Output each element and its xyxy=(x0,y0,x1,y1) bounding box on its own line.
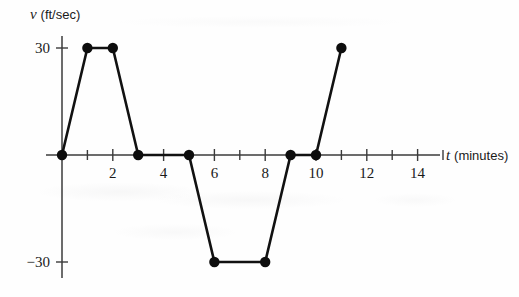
data-point-marker xyxy=(133,150,143,160)
x-axis-tick-label: 10 xyxy=(309,165,324,182)
x-axis-tick-label: 6 xyxy=(211,165,219,182)
data-point-marker xyxy=(184,150,194,160)
data-point-marker xyxy=(336,43,346,53)
x-axis-tick-label: 2 xyxy=(109,165,117,182)
y-axis-title: v (ft/sec) xyxy=(30,6,80,23)
x-axis-title: t (minutes) xyxy=(446,147,508,164)
y-axis-tick-label: −30 xyxy=(27,254,50,271)
data-point-marker xyxy=(57,150,67,160)
y-axis-tick-label: 30 xyxy=(35,40,50,57)
data-point-marker xyxy=(311,150,321,160)
data-point-marker xyxy=(209,257,219,267)
velocity-time-graph-figure: 2468101214 30−30 v (ft/sec) t (minutes) xyxy=(0,0,519,297)
x-axis-tick-label: 4 xyxy=(160,165,168,182)
plot-canvas xyxy=(0,0,519,297)
data-point-marker xyxy=(285,150,295,160)
x-axis-unit: (minutes) xyxy=(454,148,508,163)
data-point-marker xyxy=(82,43,92,53)
y-axis-unit: (ft/sec) xyxy=(41,7,81,22)
axes-group xyxy=(46,36,440,278)
x-axis-tick-label: 14 xyxy=(410,165,425,182)
y-axis-variable: v xyxy=(30,6,37,22)
data-point-marker xyxy=(108,43,118,53)
x-axis-tick-label: 12 xyxy=(359,165,374,182)
data-point-marker xyxy=(260,257,270,267)
x-axis-tick-label: 8 xyxy=(261,165,269,182)
